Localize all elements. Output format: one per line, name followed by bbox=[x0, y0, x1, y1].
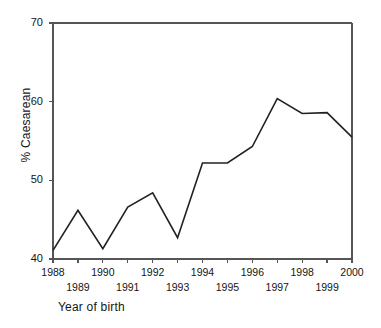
x-tick-label: 1990 bbox=[83, 266, 123, 278]
x-tick-label: 1994 bbox=[183, 266, 223, 278]
line-plot bbox=[0, 0, 381, 328]
caesarean-trend-line bbox=[53, 99, 352, 251]
x-tick-label: 1989 bbox=[58, 281, 98, 293]
y-tick-label: 50 bbox=[17, 173, 43, 185]
x-tick-label: 1991 bbox=[108, 281, 148, 293]
y-tick-label: 40 bbox=[17, 252, 43, 264]
y-tick-label: 70 bbox=[17, 16, 43, 28]
y-tick-label: 60 bbox=[17, 95, 43, 107]
x-tick-label: 1998 bbox=[282, 266, 322, 278]
x-tick-label: 1988 bbox=[33, 266, 73, 278]
x-tick-label: 1996 bbox=[232, 266, 272, 278]
x-tick-label: 1997 bbox=[257, 281, 297, 293]
x-tick-label: 2000 bbox=[332, 266, 372, 278]
axis-tick-marks bbox=[49, 23, 352, 263]
x-tick-label: 1993 bbox=[158, 281, 198, 293]
chart-figure: % Caesarean Year of birth 40506070 19881… bbox=[0, 0, 381, 328]
x-tick-label: 1992 bbox=[133, 266, 173, 278]
plot-frame bbox=[53, 23, 352, 259]
x-axis-title: Year of birth bbox=[58, 300, 125, 314]
x-tick-label: 1999 bbox=[307, 281, 347, 293]
x-tick-label: 1995 bbox=[207, 281, 247, 293]
